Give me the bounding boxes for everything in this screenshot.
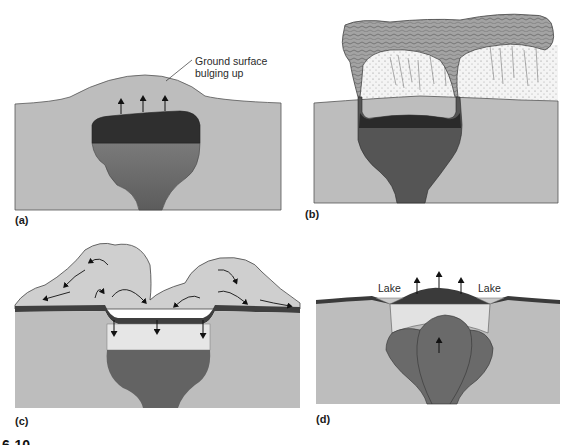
annotation-leader-line	[166, 60, 192, 81]
annotation-line-1: Ground surface	[195, 55, 267, 67]
panel-label-c: (c)	[15, 415, 28, 427]
panel-label-b: (b)	[305, 208, 319, 220]
annotation-line-2: bulging up	[195, 67, 267, 79]
panel-c	[15, 243, 300, 408]
lake-label-left: Lake	[378, 282, 401, 294]
lake-label-right: Lake	[478, 282, 501, 294]
panel-label-d: (d)	[316, 413, 330, 425]
panel-b	[314, 14, 558, 203]
caldera-formation-diagram	[0, 0, 579, 445]
annotation-ground-surface: Ground surface bulging up	[195, 55, 267, 79]
panel-a	[15, 60, 281, 210]
figure-number: 6-10	[2, 437, 30, 445]
ash-flow-cloud	[15, 243, 300, 309]
collapsed-block-c	[107, 324, 210, 350]
panel-d	[316, 274, 560, 404]
panel-label-a: (a)	[15, 214, 28, 226]
